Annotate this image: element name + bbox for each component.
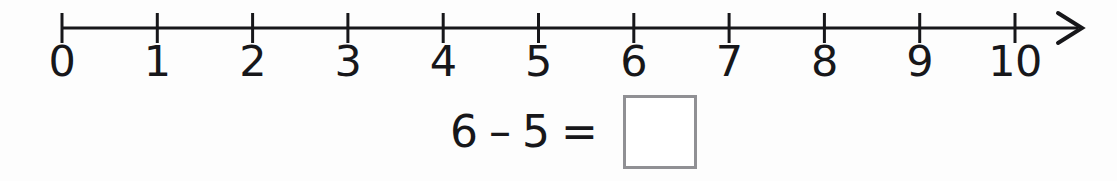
equation-expression: 6 – 5 = <box>450 88 697 176</box>
tick-label-8: 8 <box>784 40 864 83</box>
answer-input-box[interactable] <box>623 95 697 169</box>
tick-label-3: 3 <box>308 40 388 83</box>
tick-label-6: 6 <box>594 40 674 83</box>
right-operand: 5 <box>522 110 550 154</box>
tick-label-1: 1 <box>117 40 197 83</box>
number-line: 012345678910 <box>0 0 1117 90</box>
math-worksheet: 012345678910 6 – 5 = <box>0 0 1117 181</box>
tick-label-0: 0 <box>22 40 102 83</box>
equation-row: 6 – 5 = <box>0 88 1117 181</box>
minus-operator-icon: – <box>489 110 511 154</box>
tick-label-9: 9 <box>880 40 960 83</box>
tick-label-7: 7 <box>689 40 769 83</box>
tick-label-4: 4 <box>403 40 483 83</box>
tick-label-2: 2 <box>213 40 293 83</box>
equals-sign: = <box>561 110 598 154</box>
left-operand: 6 <box>450 110 478 154</box>
tick-label-10: 10 <box>975 40 1055 83</box>
tick-label-5: 5 <box>499 40 579 83</box>
